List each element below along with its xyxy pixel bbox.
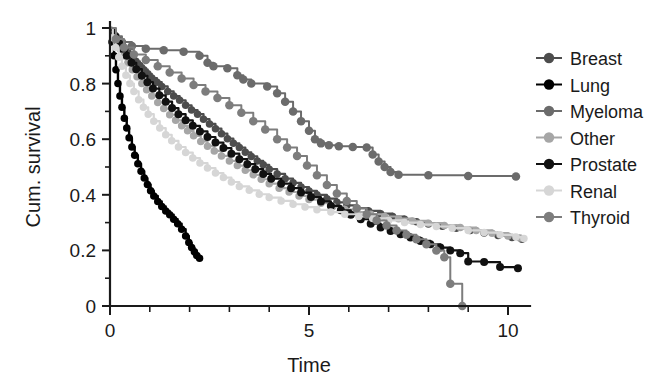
data-point (118, 63, 126, 71)
legend-label: Breast (570, 49, 622, 69)
data-point (168, 137, 176, 145)
data-point (417, 221, 425, 229)
data-point (130, 50, 139, 59)
data-point (174, 110, 182, 118)
y-tick-label: 1 (85, 18, 96, 39)
data-point (289, 107, 298, 116)
data-point (166, 111, 174, 119)
legend-item-other[interactable]: Other (536, 129, 615, 149)
data-point (456, 249, 464, 257)
data-point (194, 110, 202, 118)
data-point (135, 96, 143, 104)
legend-item-thyroid[interactable]: Thyroid (536, 208, 630, 228)
data-point (160, 105, 168, 113)
data-point (120, 43, 128, 52)
data-point (248, 153, 256, 161)
data-point (307, 193, 315, 201)
legend-item-renal[interactable]: Renal (536, 182, 617, 202)
data-point (297, 117, 306, 126)
data-point (196, 254, 204, 262)
data-point (228, 178, 236, 186)
series-line-lung (110, 28, 200, 258)
series-line-thyroid (110, 28, 462, 306)
data-point (155, 91, 163, 99)
data-point (159, 46, 168, 55)
data-point (182, 232, 190, 240)
legend-swatch-marker (544, 106, 554, 116)
data-point (273, 135, 282, 144)
data-point (235, 155, 243, 163)
data-point (149, 85, 157, 93)
data-point (323, 181, 332, 190)
data-point (138, 72, 146, 80)
data-point (218, 152, 226, 160)
data-point (148, 92, 156, 100)
data-point (273, 89, 282, 98)
data-point (115, 53, 123, 61)
data-point (259, 161, 267, 169)
data-point (154, 62, 163, 71)
data-point (335, 142, 344, 151)
data-point (480, 229, 488, 237)
data-point (372, 216, 381, 225)
data-point (225, 101, 234, 110)
data-point (263, 82, 272, 91)
y-tick-label: 0.2 (70, 240, 96, 261)
x-tick-label: 5 (304, 320, 315, 341)
data-point (196, 159, 204, 167)
data-point (514, 264, 522, 272)
data-point (297, 189, 305, 197)
data-point (212, 125, 220, 133)
data-point (195, 52, 204, 61)
data-point (512, 233, 520, 241)
legend-item-lung[interactable]: Lung (536, 76, 610, 96)
data-point (165, 68, 174, 77)
data-point (446, 246, 454, 254)
data-point (394, 171, 403, 180)
legend-label: Other (570, 129, 615, 149)
legend-label: Renal (570, 182, 617, 202)
data-point (182, 102, 190, 110)
data-point (131, 152, 139, 160)
data-point (243, 160, 251, 168)
series-renal (109, 28, 528, 242)
data-point (176, 97, 184, 105)
data-point (432, 246, 441, 255)
series-line-prostate (110, 28, 518, 268)
data-point (178, 226, 186, 234)
legend-item-breast[interactable]: Breast (536, 49, 622, 69)
data-point (175, 143, 183, 151)
legend-swatch-marker (544, 79, 554, 89)
data-point (520, 235, 528, 243)
data-point (116, 92, 124, 100)
data-point (239, 75, 248, 84)
data-point (464, 258, 472, 266)
data-point (132, 65, 140, 73)
data-point (267, 175, 275, 183)
data-point (412, 235, 421, 244)
data-point (130, 88, 138, 96)
legend-label: Prostate (570, 155, 637, 175)
data-point (236, 183, 244, 191)
legend-item-myeloma[interactable]: Myeloma (536, 102, 644, 122)
data-point (246, 187, 254, 195)
data-point (126, 80, 134, 88)
data-point (341, 211, 349, 219)
data-point (333, 189, 342, 198)
data-point (251, 165, 259, 173)
data-point (168, 104, 176, 112)
y-tick-label: 0.8 (70, 74, 96, 95)
data-point (112, 44, 120, 52)
data-point (277, 197, 285, 205)
legend-item-prostate[interactable]: Prostate (536, 155, 637, 175)
data-point (227, 150, 235, 158)
data-point (204, 133, 212, 141)
data-point (212, 169, 220, 177)
data-point (144, 110, 152, 118)
data-point (256, 190, 264, 198)
data-point (446, 280, 455, 289)
data-point (224, 135, 232, 143)
y-tick-label: 0.4 (70, 185, 97, 206)
data-point (259, 170, 267, 178)
legend-swatch-marker (544, 132, 554, 142)
